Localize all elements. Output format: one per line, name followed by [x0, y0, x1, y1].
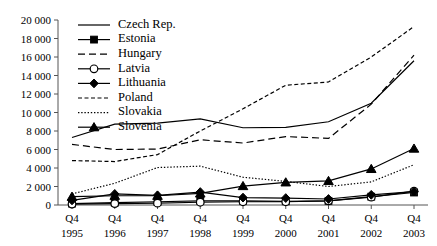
y-tick-label: 20 000	[21, 14, 52, 26]
y-tick-label: 2 000	[26, 181, 51, 193]
legend-label: Hungary	[118, 46, 162, 60]
legend-item-latvia: Latvia	[78, 61, 150, 75]
x-tick-label-quarter: Q4	[194, 212, 208, 224]
legend-label: Czech Rep.	[118, 17, 176, 31]
data-point-triangle-marker	[409, 144, 419, 152]
chart-legend: Czech Rep.EstoniaHungaryLatviaLithuaniaP…	[78, 17, 176, 133]
x-tick-label-quarter: Q4	[279, 212, 293, 224]
legend-diamond-marker	[90, 79, 98, 88]
legend-label: Latvia	[118, 61, 150, 75]
legend-item-poland: Poland	[78, 90, 153, 104]
x-tick-label-year: 1996	[104, 227, 127, 239]
line-chart: 20 00018 00016 00014 00012 00010 0008 00…	[0, 0, 437, 246]
data-point-triangle-marker	[366, 164, 376, 172]
chart-canvas: 20 00018 00016 00014 00012 00010 0008 00…	[0, 0, 437, 246]
x-tick-label-year: 1997	[147, 227, 170, 239]
legend-item-czech-rep: Czech Rep.	[78, 17, 176, 31]
legend-item-lithuania: Lithuania	[78, 75, 166, 89]
x-tick-label-quarter: Q4	[322, 212, 336, 224]
legend-label: Poland	[118, 90, 153, 104]
x-axis: Q41995Q41996Q41997Q41998Q41999Q42000Q420…	[58, 205, 428, 239]
y-tick-label: 4 000	[26, 162, 51, 174]
y-tick-label: 16 000	[21, 51, 52, 63]
y-axis: 20 00018 00016 00014 00012 00010 0008 00…	[21, 14, 58, 211]
y-tick-label: 0	[46, 199, 52, 211]
legend-label: Lithuania	[118, 75, 166, 89]
legend-item-slovenia: Slovenia	[78, 119, 162, 133]
data-point-circle-marker	[111, 200, 119, 208]
x-tick-label-year: 2001	[318, 227, 340, 239]
x-tick-label-year: 2000	[275, 227, 298, 239]
x-tick-label-year: 2003	[403, 227, 426, 239]
legend-label: Estonia	[118, 31, 156, 45]
legend-item-slovakia: Slovakia	[78, 104, 162, 118]
series-slovenia	[67, 144, 419, 200]
x-tick-label-quarter: Q4	[108, 212, 122, 224]
legend-item-estonia: Estonia	[78, 31, 156, 45]
x-tick-label-quarter: Q4	[65, 212, 79, 224]
x-tick-label-year: 1998	[189, 227, 212, 239]
legend-label: Slovakia	[118, 104, 162, 118]
legend-item-hungary: Hungary	[78, 46, 162, 60]
data-point-circle-marker	[154, 199, 162, 207]
data-point-circle-marker	[196, 198, 204, 206]
y-tick-label: 14 000	[21, 70, 52, 82]
x-tick-label-quarter: Q4	[151, 212, 165, 224]
y-tick-label: 12 000	[21, 88, 52, 100]
y-tick-label: 6 000	[26, 144, 51, 156]
legend-square-marker	[91, 36, 98, 43]
y-tick-label: 8 000	[26, 125, 51, 137]
y-tick-label: 10 000	[21, 107, 52, 119]
y-tick-label: 18 000	[21, 33, 52, 45]
legend-circle-marker	[90, 65, 98, 73]
x-tick-label-quarter: Q4	[365, 212, 379, 224]
x-tick-label-quarter: Q4	[236, 212, 250, 224]
x-tick-label-quarter: Q4	[407, 212, 421, 224]
x-tick-label-year: 1995	[61, 227, 84, 239]
legend-label: Slovenia	[118, 119, 162, 133]
x-tick-label-year: 1999	[232, 227, 255, 239]
x-tick-label-year: 2002	[360, 227, 382, 239]
